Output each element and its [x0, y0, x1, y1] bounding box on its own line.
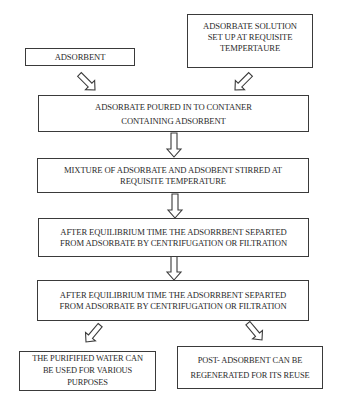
node-water-line-1: THE PURIFIFIED WATER CAN [32, 353, 143, 365]
node-separation-2-line-2: FROM ADSORBATE BY CENTRIFUGATION OR FILT… [59, 301, 286, 312]
node-separation-2: AFTER EQUILIBRIUM TIME THE ADSORRBENT SE… [37, 280, 309, 321]
arrow-separated2-to-water [81, 321, 105, 346]
node-separation-1-line-2: FROM ADSORBATE BY CENTRIFUGATION OR FILT… [60, 238, 287, 249]
node-adsorbent-line-1: ADSORBENT [55, 52, 106, 63]
node-separation-2-line-1: AFTER EQUILIBRIUM TIME THE ADSORRBENT SE… [60, 290, 286, 301]
node-separation-1-line-1: AFTER EQUILIBRIUM TIME THE ADSORRBENT SE… [60, 227, 286, 238]
arrow-separated1-to-separated2 [167, 256, 181, 280]
node-adsorbate-solution: ADSORBATE SOLUTION SET UP AT REQUISITE T… [187, 14, 313, 68]
node-solution-line-1: ADSORBATE SOLUTION [203, 21, 297, 32]
arrow-adsorbent-to-poured [75, 70, 100, 95]
node-poured-line-2: CONTAINING ADSORBENT [121, 114, 226, 128]
node-regenerate-line-1: POST- ADSORBENT CAN BE [198, 353, 303, 368]
arrow-poured-to-stirred [167, 133, 181, 157]
node-separation-1: AFTER EQUILIBRIUM TIME THE ADSORRBENT SE… [38, 218, 309, 257]
node-solution-line-3: TEMPERTAURE [220, 43, 280, 54]
node-regenerate-adsorbent: POST- ADSORBENT CAN BE REGENERATED FOR I… [177, 346, 323, 389]
node-solution-line-2: SET UP AT REQUISITE [208, 32, 293, 43]
node-stirred-line-1: MIXTURE OF ADSORBATE AND ADSOBENT STIRRE… [64, 165, 282, 176]
node-regenerate-line-2: REGENERATED FOR ITS REUSE [190, 368, 309, 383]
node-purified-water: THE PURIFIFIED WATER CAN BE USED FOR VAR… [19, 351, 156, 391]
node-adsorbate-poured: ADSORBATE POURED IN TO CONTANER CONTAINI… [38, 95, 309, 132]
node-mixture-stirred: MIXTURE OF ADSORBATE AND ADSOBENT STIRRE… [37, 158, 309, 193]
node-poured-line-1: ADSORBATE POURED IN TO CONTANER [95, 100, 252, 114]
node-water-line-2: BE USED FOR VARIOUS [43, 365, 132, 377]
arrow-solution-to-poured [230, 70, 255, 95]
arrow-separated2-to-regenerate [243, 319, 267, 344]
node-water-line-3: PURPOSES [67, 377, 108, 389]
node-stirred-line-2: REQUISITE TEMPERATURE [120, 176, 226, 187]
arrow-stirred-to-separated1 [168, 194, 182, 218]
node-adsorbent: ADSORBENT [25, 48, 135, 66]
